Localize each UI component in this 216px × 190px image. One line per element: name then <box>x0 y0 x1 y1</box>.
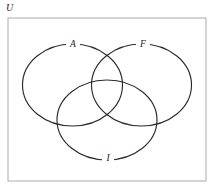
universe-label: U <box>6 2 14 13</box>
venn-diagram-figure: U A F I <box>0 0 216 190</box>
venn-diagram-canvas: U A F I <box>0 0 216 190</box>
set-label-a: A <box>69 39 76 49</box>
set-label-f: F <box>139 39 146 49</box>
